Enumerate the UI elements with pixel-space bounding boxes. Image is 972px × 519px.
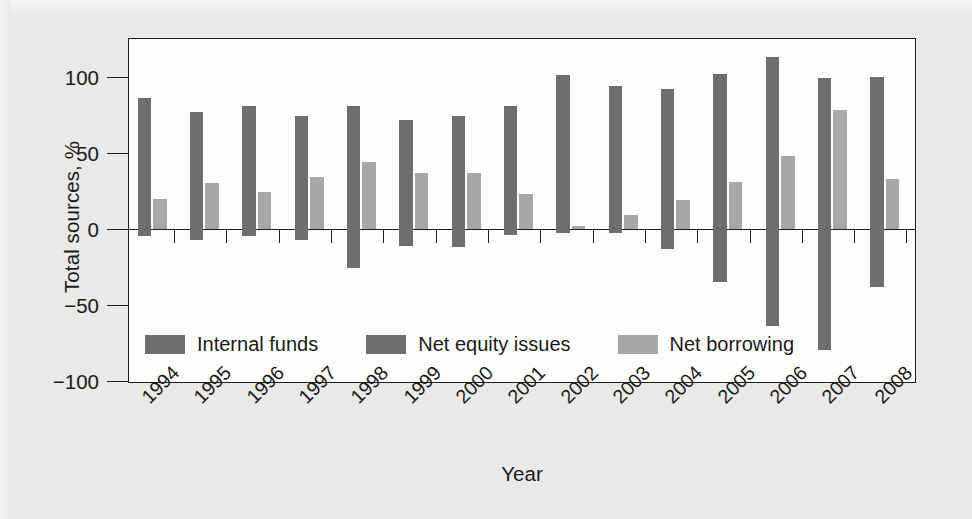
x-axis-tick-labels: 1994199519961997199819992000200120022003… [128,392,916,454]
legend-label-net-equity-issues: Net equity issues [418,333,570,356]
legend: Internal funds Net equity issues Net bor… [145,333,794,356]
bar [609,229,623,234]
y-axis-tick: 100 [107,77,129,78]
x-axis-tick [226,229,227,243]
legend-item-net-borrowing: Net borrowing [618,333,795,356]
legend-item-internal-funds: Internal funds [145,333,318,356]
bar [870,77,884,229]
x-axis-tick [750,229,751,243]
bar [310,177,324,229]
x-axis-tick [488,229,489,243]
bar [556,75,570,228]
bar [242,106,256,229]
bar [347,106,361,229]
bar [258,192,272,228]
bar [833,110,847,228]
y-axis-tick-label: −100 [53,370,99,394]
bar [572,226,586,229]
legend-swatch-net-equity-issues [366,335,406,354]
bar [676,200,690,229]
y-axis-tick: −50 [107,305,129,306]
legend-swatch-net-borrowing [618,335,658,354]
bar [519,194,533,229]
bar [781,156,795,229]
bar [190,112,204,229]
bar [347,229,361,268]
x-axis-tick [802,229,803,243]
bar [624,215,638,229]
bar [295,229,309,240]
bar [138,98,152,229]
x-axis-tick [540,229,541,243]
x-axis-tick [174,229,175,243]
legend-swatch-internal-funds [145,335,185,354]
bar [661,89,675,229]
bar [242,229,256,237]
bar [713,74,727,229]
y-axis-tick: −100 [107,381,129,382]
x-axis-tick [331,229,332,243]
y-axis-tick-label: 0 [88,218,99,242]
x-axis-tick [906,229,907,243]
x-axis-tick [436,229,437,243]
bar [818,78,832,228]
bar [415,173,429,229]
bar [467,173,481,229]
legend-item-net-equity-issues: Net equity issues [366,333,570,356]
x-axis-tick [383,229,384,243]
bar [556,229,570,234]
bar [504,106,518,229]
x-axis-tick [645,229,646,243]
bar [190,229,204,240]
x-axis-tick [854,229,855,243]
legend-label-internal-funds: Internal funds [197,333,318,356]
y-axis-tick: 0 [107,229,129,230]
bar [766,57,780,229]
plot-inner: 100500−50−100 [129,39,915,382]
bar [818,229,832,351]
bar [205,183,219,229]
bar [886,179,900,229]
y-axis-tick-label: 50 [76,142,99,166]
y-axis-tick-label: 100 [65,66,99,90]
y-axis-title: Total sources, % [60,67,84,367]
bar [713,229,727,282]
y-axis-tick-label: −50 [64,294,99,318]
bar [504,229,518,235]
bar [609,86,623,229]
x-axis-tick [279,229,280,243]
x-axis-tick [593,229,594,243]
bar [399,120,413,229]
bar [766,229,780,326]
bar [399,229,413,246]
y-axis-tick: 50 [107,153,129,154]
bar [870,229,884,287]
bar [138,229,152,237]
x-axis-title: Year [128,462,916,486]
bar [661,229,675,249]
bar [452,229,466,247]
plot-area: 100500−50−100 [128,38,916,383]
bar [362,162,376,229]
x-axis-tick [697,229,698,243]
legend-label-net-borrowing: Net borrowing [670,333,795,356]
bar [729,182,743,229]
bar-chart-figure: Total sources, % 100500−50−100 199419951… [0,0,972,519]
bar [295,116,309,228]
bar [452,116,466,228]
bar [153,199,167,229]
